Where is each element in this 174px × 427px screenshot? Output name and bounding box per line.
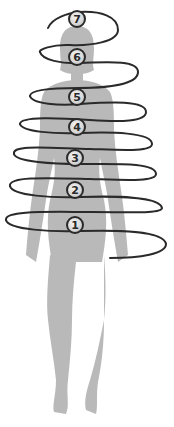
- marker-label: 7: [73, 14, 81, 25]
- chakra-marker-7: 7: [68, 10, 86, 28]
- chakra-marker-3: 3: [66, 149, 84, 167]
- marker-label: 2: [71, 185, 79, 196]
- chakra-marker-4: 4: [68, 118, 86, 136]
- marker-label: 4: [73, 122, 81, 133]
- marker-label: 6: [73, 52, 81, 63]
- marker-label: 1: [71, 220, 79, 231]
- marker-label: 5: [73, 92, 81, 103]
- chakra-marker-5: 5: [68, 88, 86, 106]
- marker-label: 3: [71, 153, 79, 164]
- chakra-marker-6: 6: [68, 48, 86, 66]
- chakra-marker-2: 2: [66, 181, 84, 199]
- body-spiral-diagram: [0, 0, 174, 427]
- chakra-marker-1: 1: [66, 216, 84, 234]
